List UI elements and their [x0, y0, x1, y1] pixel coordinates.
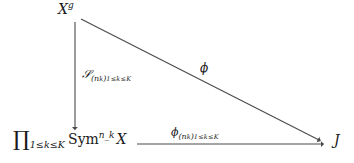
product-operator-icon: ∏ — [13, 127, 30, 151]
arrow-horizontal-label-sub-open: (n — [179, 132, 187, 141]
node-top-left-superscript: g — [68, 0, 74, 10]
arrow-horizontal-label: ϕ(nk)1≤k≤K — [171, 127, 219, 141]
node-bottom-left: ∏1≤k≤KSymn_kX — [13, 131, 127, 150]
node-top-left-base: X — [58, 1, 68, 17]
commutative-diagram: Xg ∏1≤k≤KSymn_kX J 𝒮(nk)1≤k≤K ϕ ϕ(nk)1≤k… — [0, 0, 354, 163]
node-bottom-left-functor-superscript: n_k — [99, 130, 115, 140]
node-bottom-left-operand: X — [117, 131, 127, 147]
node-top-left: Xg — [58, 1, 74, 16]
arrow-vertical-label-symbol: 𝒮 — [82, 67, 91, 81]
arrow-diagonal-label: ϕ — [200, 62, 208, 74]
node-bottom-left-functor: Sym — [68, 131, 99, 147]
node-bottom-right: J — [334, 133, 340, 147]
arrow-horizontal-label-sub-range: 1≤k≤K — [194, 133, 219, 141]
arrow-horizontal-label-symbol: ϕ — [171, 126, 179, 139]
arrow-vertical-label: 𝒮(nk)1≤k≤K — [82, 69, 131, 83]
arrow-vertical-label-sub-range: 1≤k≤K — [106, 75, 131, 83]
node-bottom-left-index-range: 1≤k≤K — [30, 139, 65, 150]
